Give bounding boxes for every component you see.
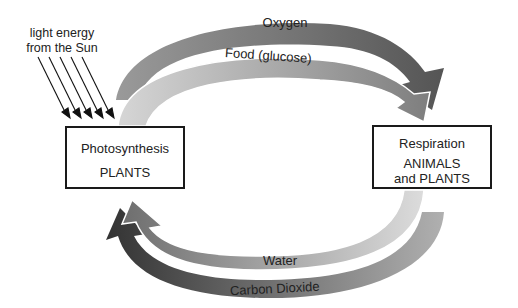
water-arrow: Water — [122, 190, 424, 270]
respiration-box: Respiration ANIMALS and PLANTS — [372, 125, 492, 189]
oxygen-label: Oxygen — [263, 15, 308, 30]
sun-label-line2: from the Sun — [20, 41, 104, 56]
photosynthesis-subtitle: PLANTS — [67, 165, 183, 180]
respiration-subtitle-line2: and PLANTS — [374, 171, 490, 186]
respiration-subtitle-line1: ANIMALS — [374, 156, 490, 171]
respiration-title: Respiration — [374, 136, 490, 151]
photosynthesis-title: Photosynthesis — [67, 141, 183, 156]
water-label: Water — [263, 253, 298, 268]
sun-label-line1: light energy — [20, 26, 104, 41]
sun-label: light energy from the Sun — [20, 26, 104, 56]
sun-rays — [38, 57, 114, 118]
photosynthesis-box: Photosynthesis PLANTS — [65, 126, 185, 189]
